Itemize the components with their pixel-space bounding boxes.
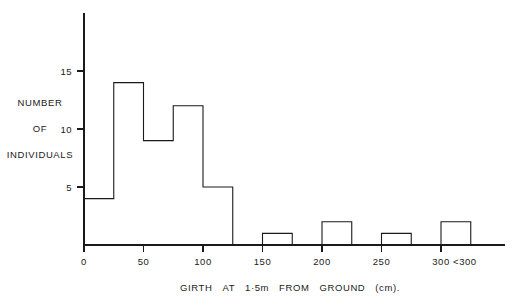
histogram-outline-3 (382, 233, 412, 245)
histogram-series (84, 83, 471, 245)
axes-group (84, 13, 505, 245)
x-tick-label-300: 300 (432, 256, 449, 267)
x-tick-label-200: 200 (313, 256, 330, 267)
y-tick-label-5: 5 (66, 182, 72, 193)
histogram-outline-2 (322, 222, 352, 245)
histogram-figure: NUMBER OF INDIVIDUALS GIRTHAT1·5mFROMGRO… (0, 0, 512, 307)
y-tick-label-15: 15 (60, 66, 72, 77)
x-tick-label-0: 0 (81, 256, 87, 267)
histogram-outline-4 (441, 222, 471, 245)
x-tick-label-50: 50 (138, 256, 150, 267)
plot-area: 51015050100150200250300<300 (0, 0, 512, 307)
tick-labels-group: 51015050100150200250300<300 (60, 66, 476, 268)
histogram-outline-1 (263, 233, 293, 245)
x-tick-label-150: 150 (254, 256, 271, 267)
histogram-outline-0 (84, 83, 233, 245)
y-tick-label-10: 10 (60, 124, 72, 135)
x-tick-label-250: 250 (373, 256, 390, 267)
x-tick-label-100: 100 (194, 256, 211, 267)
x-extra-label-0: <300 (453, 256, 476, 267)
ticks-group (77, 71, 441, 252)
